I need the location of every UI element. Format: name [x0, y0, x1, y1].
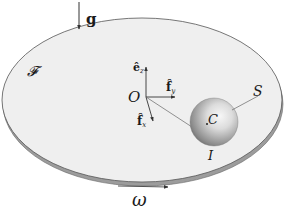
origin-label: O	[128, 88, 140, 106]
contact-point-label: I	[207, 148, 214, 163]
angular-velocity-arrow	[118, 186, 168, 187]
sphere-label: S	[253, 83, 263, 99]
disk-top	[2, 18, 282, 182]
sphere-center-label: C	[208, 112, 218, 127]
angular-velocity-label: ω	[132, 189, 147, 210]
rotating-disk-diagram: g 𝓕 O êz f̂y f̂x C S I ω	[0, 0, 285, 213]
gravity-label: g	[86, 10, 97, 28]
